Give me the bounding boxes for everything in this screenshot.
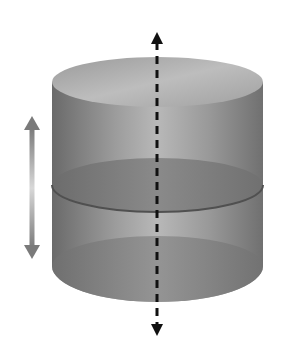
motion-arrowhead-down-icon (24, 245, 40, 259)
cylinder-diagram: Cylinder with cross-section plane moving… (0, 0, 287, 342)
axis-arrowhead-up-icon (151, 32, 163, 44)
motion-arrowhead-up-icon (24, 116, 40, 130)
vertical-motion-arrow (24, 116, 40, 259)
axis-arrowhead-down-icon (151, 324, 163, 336)
